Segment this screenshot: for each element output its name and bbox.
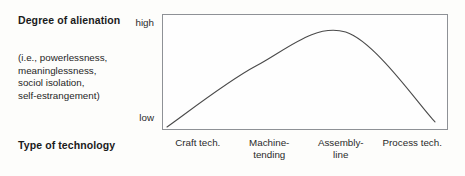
plot-frame [162, 14, 448, 130]
x-axis-title: Type of technology [18, 139, 115, 151]
y-axis-gloss-line-2: meaninglessness, [18, 65, 107, 78]
y-axis-tick-high: high [114, 17, 154, 28]
y-axis-title: Degree of alienation [18, 14, 120, 26]
x-axis-tick-process: Process tech. [377, 137, 449, 171]
x-axis-tick-machine-tending-line-2: tending [234, 149, 306, 161]
x-axis-tick-assembly-line: Assembly- line [305, 137, 377, 171]
x-axis-tick-machine-tending: Machine- tending [234, 137, 306, 171]
x-axis-tick-assembly-line-line-2: line [305, 149, 377, 161]
x-axis-tick-craft: Craft tech. [162, 137, 234, 171]
x-axis-tick-process-line-1: Process tech. [377, 137, 449, 149]
y-axis-gloss-line-3: sociol isolation, [18, 77, 107, 90]
alienation-curve-path [167, 30, 435, 127]
y-axis-gloss: (i.e., powerlessness, meaninglessness, s… [18, 52, 107, 102]
x-axis-tick-labels: Craft tech. Machine- tending Assembly- l… [162, 137, 448, 171]
alienation-technology-figure: Degree of alienation (i.e., powerlessnes… [0, 0, 465, 176]
y-axis-gloss-line-1: (i.e., powerlessness, [18, 52, 107, 65]
alienation-curve [163, 15, 449, 131]
y-axis-gloss-line-4: self-estrangement) [18, 90, 107, 103]
y-axis-tick-low: low [114, 112, 154, 123]
x-axis-tick-assembly-line-line-1: Assembly- [305, 137, 377, 149]
x-axis-tick-craft-line-1: Craft tech. [162, 137, 234, 149]
x-axis-tick-machine-tending-line-1: Machine- [234, 137, 306, 149]
